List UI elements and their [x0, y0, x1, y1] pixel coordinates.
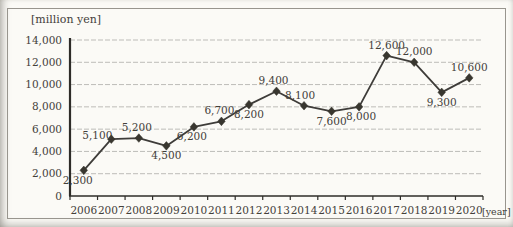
data-point-label: 7,600 — [317, 115, 347, 127]
data-point-label: 9,300 — [427, 96, 457, 108]
x-tick-label: 2018 — [401, 204, 428, 216]
data-point-marker — [300, 101, 308, 110]
x-tick-label: 2006 — [70, 204, 97, 216]
x-tick-label: 2007 — [98, 204, 125, 216]
y-tick-label: 2,000 — [32, 167, 62, 179]
y-tick-label: 8,000 — [32, 100, 62, 112]
data-point-label: 12,000 — [396, 45, 433, 57]
x-tick-label: 2012 — [236, 204, 263, 216]
data-point-label: 2,300 — [63, 174, 93, 186]
y-tick-label: 4,000 — [32, 145, 62, 157]
x-tick-label: 2017 — [373, 204, 400, 216]
x-tick-label: 2015 — [318, 204, 345, 216]
data-point-marker — [218, 117, 226, 126]
data-point-marker — [135, 134, 143, 143]
data-point-marker — [465, 74, 473, 83]
data-point-label: 8,100 — [285, 89, 315, 101]
data-point-label: 8,200 — [234, 108, 264, 120]
y-tick-label: 14,000 — [25, 34, 62, 46]
plot-area: 02,0004,0006,0008,00010,00012,00014,0002… — [25, 34, 487, 217]
data-point-label: 9,400 — [258, 74, 288, 86]
y-tick-label: 12,000 — [25, 56, 62, 68]
x-tick-label: 2020 — [456, 204, 483, 216]
data-point-label: 4,500 — [151, 149, 181, 161]
x-tick-label: 2014 — [291, 204, 318, 216]
x-tick-label: 2009 — [153, 204, 180, 216]
data-point-label: 8,000 — [346, 110, 376, 122]
scanned-chart-page: [million yen] 02,0004,0006,0008,00010,00… — [0, 0, 513, 227]
y-tick-label: 10,000 — [25, 78, 62, 90]
x-tick-label: 2010 — [181, 204, 208, 216]
data-point-label: 6,200 — [177, 130, 207, 142]
x-tick-label: 2016 — [346, 204, 373, 216]
y-tick-label: 6,000 — [32, 123, 62, 135]
x-tick-label: 2019 — [428, 204, 455, 216]
x-tick-label: 2008 — [125, 204, 152, 216]
data-point-marker — [273, 87, 281, 96]
unit-label: [million yen] — [31, 13, 101, 26]
series-line — [84, 56, 469, 171]
data-point-label: 5,100 — [82, 129, 112, 141]
y-tick-label: 0 — [55, 190, 62, 202]
line-chart: [million yen] 02,0004,0006,0008,00010,00… — [0, 0, 513, 227]
x-tick-label: 2011 — [208, 204, 235, 216]
x-tick-label: 2013 — [263, 204, 290, 216]
year-axis-label: [year] — [482, 206, 511, 217]
data-point-label: 6,700 — [204, 104, 234, 116]
data-point-label: 10,600 — [451, 61, 488, 73]
data-point-label: 5,200 — [122, 121, 152, 133]
